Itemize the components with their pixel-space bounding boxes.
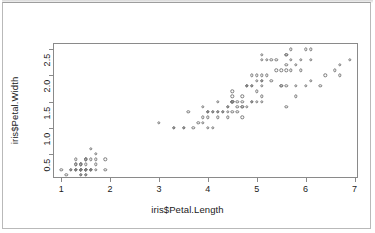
- y-tick-label: 1.5: [42, 101, 52, 125]
- y-tick-label: 2.0: [42, 74, 52, 98]
- y-tick-label: 0.5: [42, 153, 52, 177]
- x-tick-label: 1: [59, 184, 64, 194]
- x-tick-label: 6: [303, 184, 308, 194]
- x-tick-mark: [257, 178, 258, 182]
- x-tick-label: 5: [254, 184, 259, 194]
- screenshot-root: 1234567 0.51.01.52.02.5 iris$Petal.Lengt…: [0, 0, 375, 233]
- x-tick-label: 4: [205, 184, 210, 194]
- x-axis-title: iris$Petal.Length: [0, 204, 375, 215]
- x-tick-label: 3: [156, 184, 161, 194]
- x-tick-mark: [110, 178, 111, 182]
- y-tick-label: 2.5: [42, 48, 52, 72]
- scatter-plot: 1234567 0.51.01.52.02.5 iris$Petal.Lengt…: [0, 0, 375, 233]
- x-tick-mark: [355, 178, 356, 182]
- x-tick-mark: [208, 178, 209, 182]
- x-tick-mark: [61, 178, 62, 182]
- y-tick-label: 1.0: [42, 127, 52, 151]
- x-tick-label: 7: [352, 184, 357, 194]
- y-axis-title: iris$Petal.Width: [9, 23, 20, 198]
- x-tick-mark: [306, 178, 307, 182]
- x-tick-label: 2: [108, 184, 113, 194]
- x-tick-mark: [159, 178, 160, 182]
